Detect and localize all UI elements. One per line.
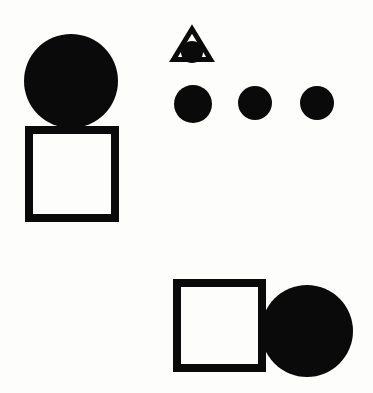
three-circles-row (174, 85, 334, 123)
circle-row-2 (238, 86, 272, 120)
shapes-figure (0, 0, 373, 393)
circle-inside-triangle (181, 41, 203, 63)
figure-canvas (0, 0, 373, 393)
square-beside-circle-group (177, 283, 353, 377)
circle-row-3 (300, 86, 334, 120)
circle-top-left (24, 34, 118, 128)
circle-bottom-right (261, 285, 353, 377)
square-lower-right-fill (177, 283, 262, 368)
circle-row-1 (174, 85, 212, 123)
